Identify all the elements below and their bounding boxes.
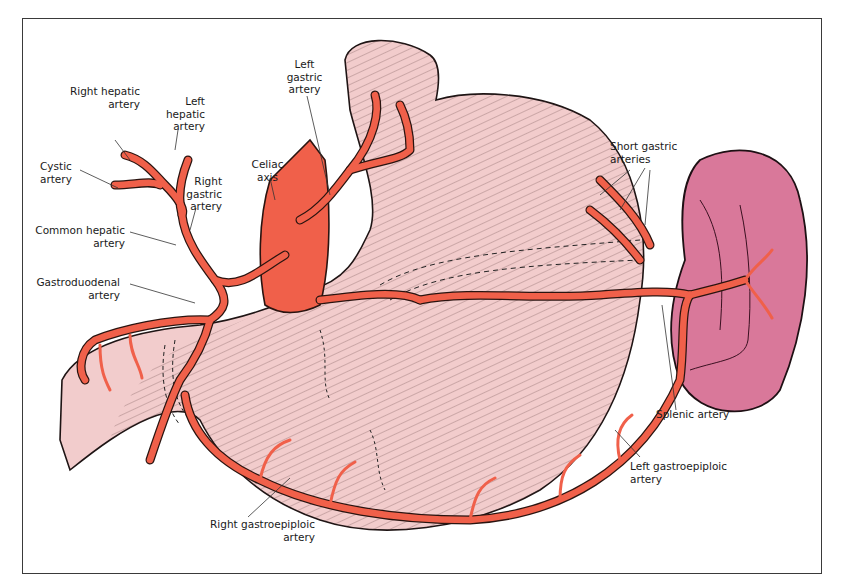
label-left-gastric-artery: Left gastric artery: [282, 58, 327, 96]
label-left-gastroepiploic-artery: Left gastroepiploic artery: [630, 460, 750, 485]
label-right-gastroepiploic-artery: Right gastroepiploic artery: [200, 518, 315, 543]
label-short-gastric-arteries: Short gastric arteries: [610, 140, 720, 165]
label-splenic-artery: Splenic artery: [656, 408, 756, 421]
label-left-hepatic-artery: Left hepatic artery: [150, 95, 205, 133]
label-right-hepatic-artery: Right hepatic artery: [60, 85, 140, 110]
label-right-gastric-artery: Right gastric artery: [180, 175, 222, 213]
label-cystic-artery: Cystic artery: [40, 160, 100, 185]
label-celiac-axis: Celiac axis: [245, 158, 290, 183]
label-gastroduodenal-artery: Gastroduodenal artery: [30, 276, 120, 301]
label-common-hepatic-artery: Common hepatic artery: [30, 224, 125, 249]
